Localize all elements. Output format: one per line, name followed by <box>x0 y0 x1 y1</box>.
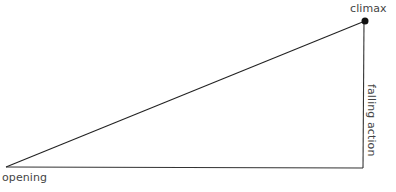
falling-action-label: falling action <box>365 84 378 157</box>
rising-action-line <box>6 21 365 167</box>
climax-label: climax <box>350 2 387 15</box>
opening-label: opening <box>2 171 47 184</box>
baseline <box>6 167 363 168</box>
plot-diagram <box>0 0 396 192</box>
falling-action-line <box>363 21 364 168</box>
climax-point <box>362 18 369 25</box>
